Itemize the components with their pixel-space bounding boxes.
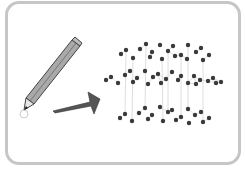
atom — [119, 52, 123, 56]
atom — [135, 76, 139, 80]
atom — [201, 120, 205, 124]
atom — [170, 70, 174, 74]
atom — [131, 80, 135, 84]
atom — [109, 75, 113, 79]
atom — [185, 57, 189, 61]
atom — [166, 110, 170, 114]
atom — [176, 78, 180, 82]
atom — [186, 107, 190, 111]
graphite-structure-icon — [104, 42, 223, 125]
atom — [186, 81, 190, 85]
atom — [164, 77, 168, 81]
atom — [179, 74, 183, 78]
atom — [186, 43, 190, 47]
atom — [123, 73, 127, 77]
atom — [146, 82, 150, 86]
atom — [171, 44, 175, 48]
atom — [207, 116, 211, 120]
atom — [187, 121, 191, 125]
illustration-canvas — [0, 0, 245, 169]
atom — [151, 75, 155, 79]
pencil-icon — [20, 37, 82, 118]
atom — [199, 110, 203, 114]
atom — [150, 113, 154, 117]
atom — [137, 111, 141, 115]
atom — [130, 119, 134, 123]
atom — [199, 46, 203, 50]
atom — [118, 116, 122, 120]
atom — [148, 55, 152, 59]
atom — [160, 57, 164, 61]
atom — [159, 81, 163, 85]
atom — [150, 50, 154, 54]
atom — [124, 48, 128, 52]
atom — [158, 105, 162, 109]
atom — [179, 115, 183, 119]
atom — [211, 76, 215, 80]
atom — [138, 47, 142, 51]
atom — [198, 78, 202, 82]
atom — [219, 80, 223, 84]
atom — [214, 81, 218, 85]
atom — [166, 49, 170, 53]
atom — [158, 43, 162, 47]
atom — [104, 78, 108, 82]
atom — [207, 53, 211, 57]
atom — [144, 42, 148, 46]
atom — [192, 74, 196, 78]
atom — [123, 112, 127, 116]
atom — [174, 118, 178, 122]
atom — [146, 117, 150, 121]
atom — [206, 79, 210, 83]
atom — [193, 113, 197, 117]
atom — [131, 56, 135, 60]
arrow-icon — [53, 92, 100, 114]
atom — [116, 81, 120, 85]
atom — [156, 72, 160, 76]
atom — [194, 50, 198, 54]
atom — [143, 106, 147, 110]
atom — [128, 69, 132, 73]
atom — [170, 108, 174, 112]
atom — [143, 69, 147, 73]
atom — [194, 82, 198, 86]
atom — [179, 53, 183, 57]
atom — [173, 54, 177, 58]
atom — [201, 58, 205, 62]
atom — [161, 119, 165, 123]
